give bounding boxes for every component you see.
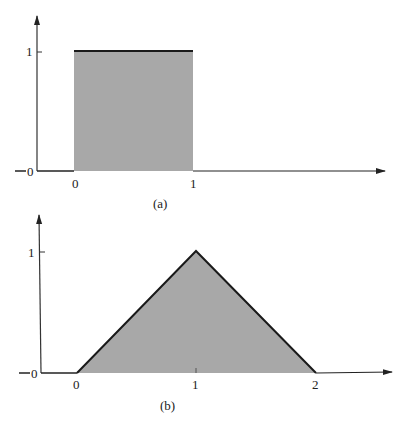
caption-a: (a) xyxy=(153,196,167,211)
x-label-1: 1 xyxy=(190,176,197,191)
y-label-0: 0 xyxy=(27,164,34,179)
chart-a: 1 0 0 1 (a) xyxy=(15,16,385,211)
caption-b: (b) xyxy=(160,398,175,413)
y-label-1: 1 xyxy=(26,44,33,59)
y-label-1: 1 xyxy=(28,245,35,260)
chart-b: 1 0 0 1 2 (b) xyxy=(19,215,392,413)
x-axis xyxy=(316,372,392,373)
y-label-0: 0 xyxy=(31,366,38,381)
x-label-2: 2 xyxy=(312,377,319,392)
x-label-0: 0 xyxy=(72,176,79,191)
figure: 1 0 0 1 (a) 1 0 0 1 2 (b) xyxy=(0,0,408,424)
y-axis xyxy=(39,215,41,373)
x-label-0: 0 xyxy=(73,377,80,392)
rectangle-area xyxy=(74,51,193,171)
x-label-1: 1 xyxy=(192,377,199,392)
triangle-area xyxy=(77,251,316,373)
